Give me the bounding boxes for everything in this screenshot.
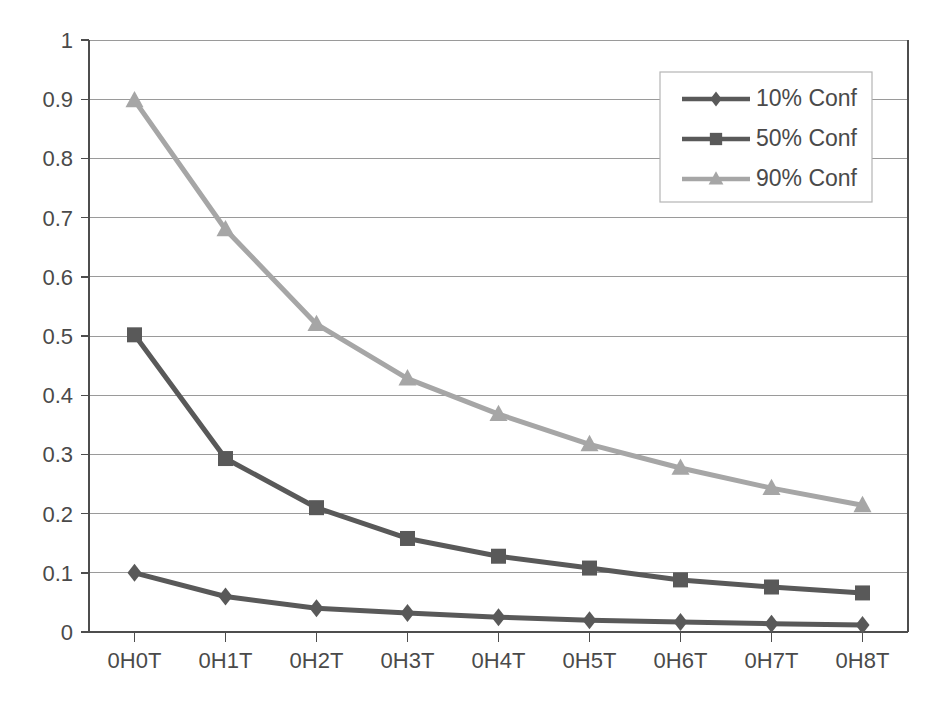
marker-square (218, 451, 233, 466)
legend-label: 10% Conf (756, 85, 858, 111)
y-tick-label: 0.7 (42, 206, 73, 231)
marker-square (400, 531, 415, 546)
x-axis-tick-labels: 0H0T0H1T0H2T0H3T0H4T0H5T0H6T0H7T0H8T (108, 632, 890, 673)
legend-label: 50% Conf (756, 125, 858, 151)
marker-square (582, 561, 597, 576)
x-tick-label: 0H5T (563, 648, 617, 673)
y-tick-label: 0.5 (42, 324, 73, 349)
marker-square (491, 549, 506, 564)
y-tick-label: 0 (61, 620, 73, 645)
x-tick-label: 0H4T (472, 648, 526, 673)
y-tick-label: 0.8 (42, 146, 73, 171)
x-tick-label: 0H3T (381, 648, 435, 673)
x-tick-label: 0H6T (654, 648, 708, 673)
marker-square (309, 500, 324, 515)
y-tick-label: 0.1 (42, 561, 73, 586)
line-chart: 00.10.20.30.40.50.60.70.80.91 0H0T0H1T0H… (0, 0, 931, 703)
x-tick-label: 0H2T (290, 648, 344, 673)
chart-legend[interactable]: 10% Conf50% Conf90% Conf (660, 72, 872, 202)
x-tick-label: 0H7T (745, 648, 799, 673)
marker-square (710, 133, 722, 145)
y-tick-label: 0.3 (42, 442, 73, 467)
x-tick-label: 0H1T (199, 648, 253, 673)
marker-square (855, 585, 870, 600)
y-tick-label: 0.6 (42, 265, 73, 290)
x-tick-label: 0H0T (108, 648, 162, 673)
marker-square (127, 327, 142, 342)
y-tick-label: 0.2 (42, 502, 73, 527)
legend-label: 90% Conf (756, 165, 858, 191)
marker-square (764, 580, 779, 595)
x-tick-label: 0H8T (836, 648, 890, 673)
y-tick-label: 0.4 (42, 383, 73, 408)
y-tick-label: 1 (61, 28, 73, 53)
chart-container: 00.10.20.30.40.50.60.70.80.91 0H0T0H1T0H… (0, 0, 931, 703)
marker-square (673, 572, 688, 587)
y-tick-label: 0.9 (42, 87, 73, 112)
